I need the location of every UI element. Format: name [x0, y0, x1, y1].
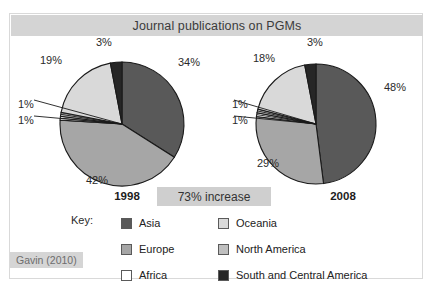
chart-legend: AsiaOceaniaEuropeNorth AmericaAfricaSout…	[121, 210, 416, 288]
legend-item-label: South and Central America	[236, 269, 367, 281]
legend-item-label: Oceania	[236, 217, 277, 229]
pie-2008-value-label: 1%	[232, 98, 248, 110]
pie-1998-value-label: 42%	[86, 174, 108, 186]
legend-swatch-icon	[121, 218, 132, 229]
chart-title-band: Journal publications on PGMs	[11, 15, 423, 36]
legend-item-oceania[interactable]: Oceania	[218, 217, 416, 229]
legend-item-north-america[interactable]: North America	[218, 243, 416, 255]
pie-2008-value-label: 18%	[253, 52, 275, 64]
pie-1998-value-label: 19%	[40, 54, 62, 66]
legend-item-label: North America	[236, 243, 306, 255]
pie-1998-value-label: 1%	[18, 114, 34, 126]
legend-key-label: Key:	[71, 214, 93, 226]
page-title: Journal publications on PGMs	[133, 19, 302, 33]
legend-item-south-and-central-america[interactable]: South and Central America	[218, 269, 416, 281]
source-citation: Gavin (2010)	[10, 252, 83, 268]
pie-2008-value-label: 1%	[232, 114, 248, 126]
legend-swatch-icon	[121, 270, 132, 281]
legend-swatch-icon	[121, 244, 132, 255]
legend-swatch-icon	[218, 270, 229, 281]
legend-item-label: Africa	[139, 269, 167, 281]
pie-1998-value-label: 34%	[178, 56, 200, 68]
pie-2008-value-label: 3%	[307, 36, 323, 48]
pie-2008-value-label: 29%	[257, 157, 279, 169]
pie-2008-value-label: 48%	[384, 81, 406, 93]
chart-year-label-2008: 2008	[298, 190, 388, 202]
figure-panel: Journal publications on PGMs 34%42%1%1%1…	[9, 13, 423, 279]
increase-annotation-text: 73% increase	[178, 190, 251, 204]
increase-annotation: 73% increase	[157, 187, 271, 206]
legend-item-africa[interactable]: Africa	[121, 269, 218, 281]
legend-item-label: Asia	[139, 217, 160, 229]
legend-swatch-icon	[218, 218, 229, 229]
pie-1998-value-label: 1%	[18, 98, 34, 110]
legend-item-europe[interactable]: Europe	[121, 243, 218, 255]
legend-swatch-icon	[218, 244, 229, 255]
legend-item-asia[interactable]: Asia	[121, 217, 218, 229]
pie-slice-europe	[256, 116, 324, 184]
pie-1998-value-label: 3%	[96, 36, 112, 48]
pie-slice-asia	[316, 64, 376, 184]
legend-item-label: Europe	[139, 243, 174, 255]
